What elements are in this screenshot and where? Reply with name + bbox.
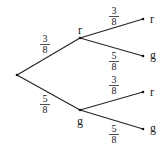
prob-root-r: 3 8	[40, 33, 50, 55]
prob-root-r-denominator: 8	[43, 44, 48, 55]
prob-g-r-numerator: 3	[112, 74, 117, 85]
prob-r-r-numerator: 3	[112, 5, 117, 16]
prob-g-g: 5 8	[109, 123, 119, 145]
node-r-label: r	[78, 23, 82, 37]
edge-root-r	[17, 38, 80, 75]
probability-tree: r g r g r g 3 8 5 8 3 8 5 8 3 8 5 8	[0, 0, 161, 157]
leaf-g-g	[142, 128, 145, 131]
prob-g-g-numerator: 5	[112, 123, 117, 134]
leaf-r-g	[142, 55, 145, 58]
prob-root-g-denominator: 8	[43, 104, 48, 115]
prob-r-g-denominator: 8	[112, 61, 117, 72]
leaf-g-r	[142, 91, 145, 94]
prob-root-g-numerator: 5	[43, 93, 48, 104]
leaf-r-g-label: g	[150, 48, 156, 62]
prob-g-r-denominator: 8	[112, 85, 117, 96]
node-g	[79, 109, 82, 112]
leaf-g-g-label: g	[150, 121, 156, 135]
prob-r-g: 5 8	[109, 50, 119, 72]
prob-r-r: 3 8	[109, 5, 119, 27]
prob-g-r: 3 8	[109, 74, 119, 96]
prob-r-g-numerator: 5	[112, 50, 117, 61]
node-r	[79, 37, 82, 40]
node-g-label: g	[77, 114, 83, 128]
leaf-g-r-label: r	[150, 85, 154, 99]
leaf-r-r-label: r	[150, 12, 154, 26]
prob-root-r-numerator: 3	[43, 33, 48, 44]
prob-r-r-denominator: 8	[112, 16, 117, 27]
prob-g-g-denominator: 8	[112, 134, 117, 145]
prob-root-g: 5 8	[40, 93, 50, 115]
leaf-r-r	[142, 18, 145, 21]
root-node	[16, 74, 19, 77]
